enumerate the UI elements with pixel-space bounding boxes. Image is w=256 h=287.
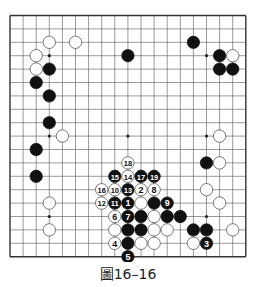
white-stone <box>30 50 42 62</box>
move-number: 13 <box>124 186 132 195</box>
black-stone <box>30 170 42 182</box>
move-number: 14 <box>124 173 133 182</box>
star-point <box>48 215 51 218</box>
black-stone <box>148 197 160 209</box>
star-point <box>48 54 51 57</box>
move-number: 19 <box>150 173 158 182</box>
black-stone <box>122 237 134 249</box>
white-stone <box>43 36 55 48</box>
figure-caption: 圖16–16 <box>0 263 256 283</box>
black-stone <box>213 63 225 75</box>
black-stone <box>122 50 134 62</box>
black-stone <box>227 63 239 75</box>
black-stone <box>213 50 225 62</box>
white-stone <box>213 197 225 209</box>
move-number: 8 <box>152 185 157 195</box>
white-stone <box>69 36 81 48</box>
move-number: 15 <box>111 173 119 182</box>
black-stone <box>43 63 55 75</box>
move-number: 6 <box>112 212 117 222</box>
white-stone <box>109 224 121 236</box>
white-stone <box>43 197 55 209</box>
black-stone <box>200 157 212 169</box>
white-stone <box>56 130 68 142</box>
black-stone <box>122 224 134 236</box>
move-number: 16 <box>98 186 106 195</box>
white-stone <box>135 197 147 209</box>
white-stone <box>135 237 147 249</box>
star-point <box>48 135 51 138</box>
white-stone <box>200 184 212 196</box>
black-stone <box>174 210 186 222</box>
move-number: 7 <box>125 212 130 222</box>
move-number: 3 <box>204 239 209 249</box>
black-stone <box>135 210 147 222</box>
white-stone <box>30 63 42 75</box>
white-stone <box>148 237 160 249</box>
move-number: 4 <box>112 239 117 249</box>
white-stone <box>43 224 55 236</box>
star-point <box>205 135 208 138</box>
black-stone <box>161 210 173 222</box>
star-point <box>126 135 129 138</box>
white-stone <box>187 237 199 249</box>
white-stone <box>227 50 239 62</box>
go-board: 31815141719161013281211196745 <box>0 0 256 262</box>
move-number: 2 <box>138 185 143 195</box>
move-number: 9 <box>165 198 170 208</box>
black-stone <box>43 117 55 129</box>
move-number: 11 <box>111 199 119 208</box>
move-number: 1 <box>125 198 130 208</box>
black-stone <box>200 224 212 236</box>
move-number: 10 <box>111 186 119 195</box>
move-number: 18 <box>124 159 132 168</box>
move-number: 5 <box>125 252 130 262</box>
black-stone <box>43 90 55 102</box>
white-stone <box>213 157 225 169</box>
white-stone <box>227 224 239 236</box>
move-number: 12 <box>98 199 106 208</box>
move-number: 17 <box>137 173 145 182</box>
black-stone <box>30 143 42 155</box>
black-stone <box>135 224 147 236</box>
black-stone <box>30 76 42 88</box>
black-stone <box>187 224 199 236</box>
black-stone <box>187 36 199 48</box>
white-stone <box>213 130 225 142</box>
star-point <box>205 215 208 218</box>
white-stone <box>148 210 160 222</box>
white-stone <box>161 224 173 236</box>
white-stone <box>148 224 160 236</box>
star-point <box>205 54 208 57</box>
